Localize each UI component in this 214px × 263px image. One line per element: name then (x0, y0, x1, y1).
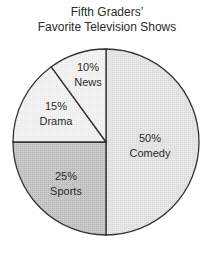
pie-chart: 10% News 15% Drama 25% Sports 50% Comedy (0, 0, 214, 263)
comedy-percent: 50% (139, 132, 161, 144)
sports-label: Sports (50, 185, 82, 197)
comedy-label: Comedy (130, 147, 171, 159)
drama-percent: 15% (45, 100, 67, 112)
sports-percent: 25% (55, 170, 77, 182)
drama-label: Drama (39, 115, 73, 127)
news-percent: 10% (77, 61, 99, 73)
news-label: News (74, 76, 102, 88)
